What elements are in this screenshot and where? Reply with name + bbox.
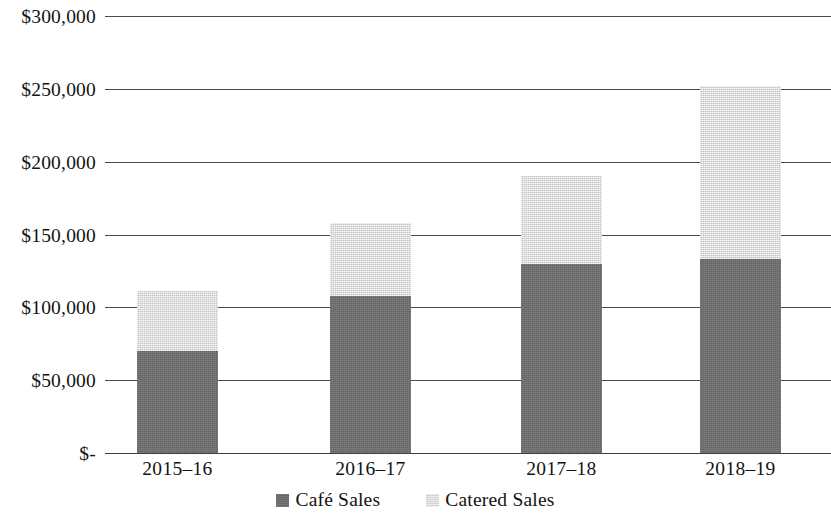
x-axis: 2015–16 2016–17 2017–18 2018–19 [105, 458, 831, 486]
gridline-200000: $200,000 [105, 162, 831, 163]
gridline-100000: $100,000 [105, 307, 831, 308]
y-tick-label-50000: $50,000 [31, 370, 96, 392]
gridline-250000: $250,000 [105, 89, 831, 90]
gridline-zero-baseline: $- [105, 453, 831, 454]
x-tick-label-2017-18: 2017–18 [526, 458, 596, 480]
chart-legend: Café Sales Catered Sales [0, 489, 831, 511]
y-tick-label-zero: $- [79, 443, 96, 465]
legend-swatch-icon-cafe-sales [276, 494, 289, 507]
legend-item-cafe-sales[interactable]: Café Sales [276, 489, 380, 511]
gridline-300000: $300,000 [105, 16, 831, 17]
y-tick-label-100000: $100,000 [21, 297, 96, 319]
gridline-50000: $50,000 [105, 380, 831, 381]
x-tick-label-2018-19: 2018–19 [705, 458, 775, 480]
y-tick-label-200000: $200,000 [21, 152, 96, 174]
legend-item-catered-sales[interactable]: Catered Sales [426, 489, 554, 511]
stacked-bar-chart: $300,000 $250,000 $200,000 $150,000 $100… [0, 0, 831, 517]
plot-area: $300,000 $250,000 $200,000 $150,000 $100… [105, 16, 831, 453]
gridline-150000: $150,000 [105, 235, 831, 236]
legend-label-catered-sales: Catered Sales [445, 489, 554, 511]
x-tick-label-2016-17: 2016–17 [335, 458, 405, 480]
y-tick-label-250000: $250,000 [21, 79, 96, 101]
legend-label-cafe-sales: Café Sales [295, 489, 380, 511]
x-tick-label-2015-16: 2015–16 [142, 458, 212, 480]
legend-swatch-icon-catered-sales [426, 494, 439, 507]
y-tick-label-300000: $300,000 [21, 6, 96, 28]
y-tick-label-150000: $150,000 [21, 225, 96, 247]
